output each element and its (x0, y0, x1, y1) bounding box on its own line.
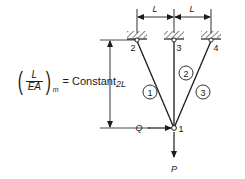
horizontal-dimension-group: L L (137, 4, 211, 33)
subscript-m: m (53, 86, 59, 93)
dimension-label-2L: 2L (115, 79, 126, 89)
load-Q: Q (135, 123, 171, 133)
member-label-1: 1 (143, 85, 157, 99)
note-relation: = Constant (63, 75, 117, 87)
member-1-line (137, 41, 174, 128)
load-Q-label: Q (135, 123, 142, 133)
node-label-3: 3 (176, 43, 181, 53)
hatch-block-3 (164, 31, 184, 38)
node-label-1: 1 (178, 124, 183, 134)
member-label-2: 2 (179, 66, 193, 80)
load-P: P (171, 132, 177, 174)
pin-circle-node-4 (209, 38, 213, 42)
pin-circle-node-3 (172, 38, 176, 42)
joint-circle-node-1 (172, 126, 177, 131)
members-group (137, 41, 211, 128)
member-bubble-1-text: 1 (147, 88, 152, 98)
hatch-block-4 (201, 31, 221, 38)
fraction-denominator: EA (26, 82, 43, 93)
node-label-2: 2 (130, 43, 135, 53)
member-3-line (174, 41, 211, 128)
open-paren: ( (18, 68, 23, 94)
hatch-block-2 (127, 31, 147, 38)
fraction-L-over-EA: L EA (26, 70, 43, 92)
node-label-4: 4 (213, 43, 218, 53)
fraction-numerator: L (30, 70, 40, 81)
load-P-label: P (171, 164, 177, 174)
figure-canvas: L L 2 3 4 1 (0, 0, 245, 179)
member-bubble-3-text: 3 (200, 88, 205, 98)
member-label-3: 3 (196, 85, 210, 99)
member-bubble-2-text: 2 (183, 69, 188, 79)
close-paren: ) (46, 68, 51, 94)
dimension-label-left-L: L (152, 4, 157, 14)
constitutive-note: ( L EA ) m = Constant (16, 68, 116, 94)
dimension-label-right-L: L (189, 4, 194, 14)
